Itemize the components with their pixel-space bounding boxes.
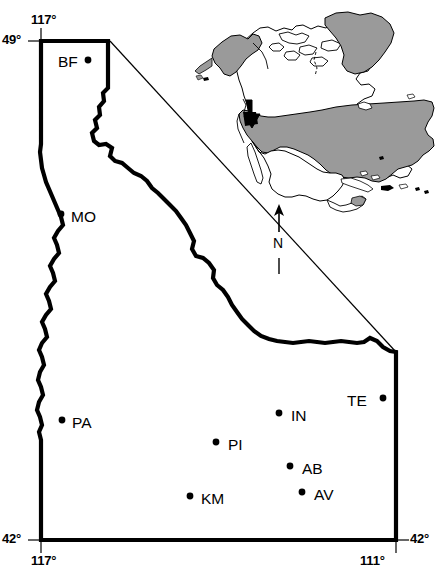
site-label-TE: TE (347, 393, 367, 409)
inset-lesser-antilles-1 (415, 187, 420, 191)
site-dot-IN[interactable] (276, 410, 283, 417)
site-label-BF: BF (58, 54, 78, 70)
idaho-location-marker-box (243, 112, 258, 126)
inset-lesser-antilles-2 (424, 190, 429, 194)
idaho-site-map-figure: 117° 49° 42° 117° 42° 111° N BF MO PA TE… (0, 0, 435, 578)
site-label-AV: AV (314, 487, 334, 503)
site-label-PI: PI (228, 437, 243, 453)
site-dot-PI[interactable] (213, 439, 220, 446)
site-dot-TE[interactable] (380, 395, 387, 402)
inset-hispaniola (381, 185, 394, 191)
site-dot-MO[interactable] (58, 211, 65, 218)
site-dot-BF[interactable] (85, 57, 92, 64)
inset-aleutians (195, 58, 212, 74)
inset-north-america (195, 12, 434, 212)
site-dot-AB[interactable] (287, 463, 294, 470)
inset-aleutian-dot-2 (203, 77, 209, 81)
site-dot-AV[interactable] (299, 489, 306, 496)
inset-aleutian-dot-1 (196, 75, 203, 80)
coord-label-bottom-right-longitude: 111° (360, 554, 385, 567)
site-label-PA: PA (72, 415, 92, 431)
site-label-IN: IN (291, 408, 307, 424)
site-dot-KM[interactable] (187, 493, 194, 500)
north-arrow-label: N (273, 236, 283, 250)
site-label-MO: MO (71, 209, 96, 225)
coord-label-top-left-longitude: 117° (31, 13, 56, 26)
site-label-KM: KM (201, 491, 224, 507)
coord-label-bottom-left-longitude: 117° (31, 554, 56, 567)
coord-label-bottom-right-latitude: 42° (410, 532, 429, 545)
site-dot-PA[interactable] (59, 417, 66, 424)
inset-small-island-ne (407, 94, 415, 99)
site-label-AB: AB (302, 461, 323, 477)
inset-cuba (341, 178, 373, 192)
inset-puerto-rico (399, 184, 408, 189)
coord-label-bottom-left-latitude: 42° (2, 532, 21, 545)
coord-label-top-left-latitude: 49° (2, 33, 21, 46)
